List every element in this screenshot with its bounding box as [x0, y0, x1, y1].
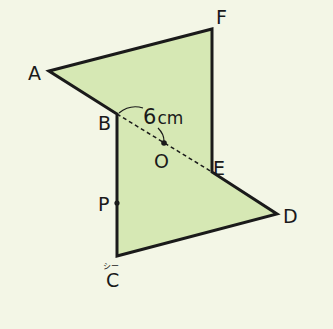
label-a: A [28, 62, 41, 84]
label-d: D [283, 205, 298, 227]
measurement-unit: cm [157, 108, 183, 128]
label-c: C [106, 269, 119, 291]
geometry-diagram: A B F O E P D C シー 6cm [0, 0, 333, 329]
label-o: O [154, 150, 169, 172]
point-o-dot [161, 140, 167, 146]
label-b: B [98, 112, 111, 134]
point-p-dot [114, 200, 119, 205]
label-p: P [98, 193, 109, 215]
label-c-ruby: シー [103, 262, 119, 271]
label-e: E [213, 157, 225, 179]
label-f: F [216, 6, 227, 28]
measurement-label: 6cm [143, 105, 183, 129]
measurement-value: 6 [143, 105, 156, 129]
